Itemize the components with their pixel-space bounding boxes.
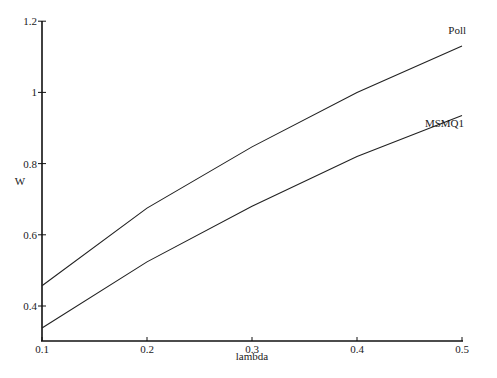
y-tick-label: 0.8 — [23, 158, 37, 170]
y-tick-label: 1 — [32, 86, 38, 98]
series-lines: PollMSMQ1 — [42, 24, 466, 328]
y-axis-label: W — [15, 175, 26, 187]
series-label-msmq1: MSMQ1 — [425, 117, 464, 129]
y-tick-label: 0.6 — [23, 229, 37, 241]
series-line-poll — [42, 46, 462, 286]
y-tick-label: 0.4 — [23, 300, 37, 312]
x-tick-label: 0.2 — [140, 343, 154, 355]
x-tick-label: 0.4 — [350, 343, 364, 355]
x-axis-label: lambda — [236, 350, 268, 362]
series-label-poll: Poll — [448, 24, 466, 36]
x-tick-label: 0.1 — [35, 343, 49, 355]
axes — [41, 21, 463, 341]
line-chart: 0.40.60.811.2 0.10.20.30.40.5 PollMSMQ1 … — [0, 0, 497, 378]
x-tick-label: 0.5 — [455, 343, 469, 355]
y-tick-label: 1.2 — [23, 15, 37, 27]
